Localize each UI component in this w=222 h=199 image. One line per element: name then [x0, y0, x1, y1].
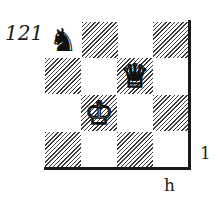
- square-g4: [117, 22, 153, 58]
- square-f3: [81, 58, 117, 94]
- square-e2: [45, 95, 81, 131]
- rank-label: 1: [200, 143, 211, 163]
- square-h1: [153, 132, 189, 168]
- board-bottom-border: [44, 167, 191, 170]
- square-f4: [82, 22, 118, 58]
- square-g1: [117, 132, 153, 168]
- square-e1: [45, 132, 81, 168]
- square-h3: [153, 58, 189, 94]
- square-g2: [117, 95, 153, 131]
- black-knight-icon: ♞: [45, 22, 81, 58]
- diagram-number: 121: [5, 22, 43, 44]
- white-queen-icon: ♕: [117, 58, 153, 94]
- square-e3: [45, 58, 81, 94]
- chess-board: ♞ ♕ ♔: [45, 22, 189, 168]
- square-h2: [153, 95, 189, 131]
- board-right-border: [188, 20, 191, 170]
- square-h4: [153, 22, 189, 58]
- white-king-icon: ♔: [81, 95, 117, 131]
- file-label: h: [164, 175, 175, 195]
- square-f1: [81, 132, 117, 168]
